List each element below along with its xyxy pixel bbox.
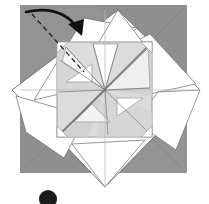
origami-diagram-figure <box>0 0 209 204</box>
step-badge-circle <box>39 190 57 204</box>
origami-diagram-canvas <box>0 0 209 204</box>
center-point-marker <box>104 89 107 92</box>
step-badge <box>39 190 57 204</box>
